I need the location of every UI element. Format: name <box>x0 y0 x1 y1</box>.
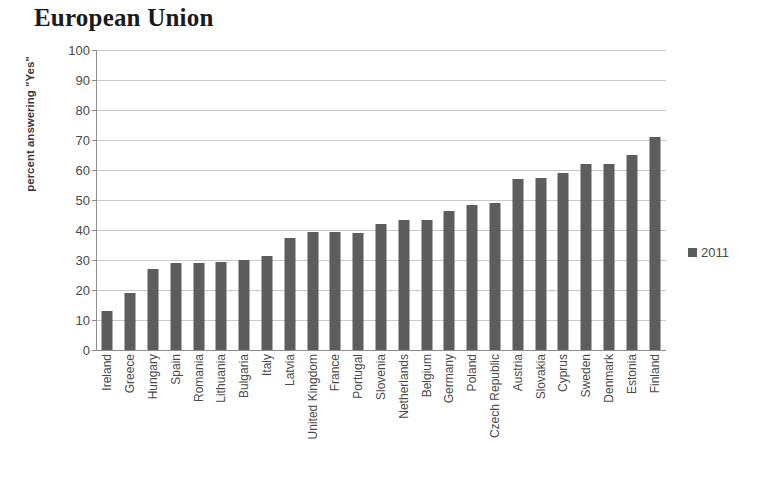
x-label-slot: Spain <box>164 354 187 464</box>
y-tick-label-0: 0 <box>83 343 90 358</box>
x-label-slot: Germany <box>438 354 461 464</box>
y-axis-line <box>96 50 97 351</box>
bar[interactable] <box>375 224 386 350</box>
gridline-0 <box>96 350 666 351</box>
page-title: European Union <box>34 4 214 32</box>
x-tick-label: Italy <box>260 354 274 376</box>
x-label-slot: France <box>324 354 347 464</box>
x-tick-label: Estonia <box>625 354 639 394</box>
x-label-slot: Poland <box>461 354 484 464</box>
x-tick-label: Denmark <box>602 354 616 403</box>
bar[interactable] <box>307 232 318 351</box>
x-label-slot: Bulgaria <box>233 354 256 464</box>
bar-slot <box>575 50 598 350</box>
y-tick-60 <box>92 170 97 171</box>
bar[interactable] <box>125 293 136 350</box>
bar[interactable] <box>512 179 523 350</box>
y-tick-label-40: 40 <box>76 223 90 238</box>
y-tick-label-100: 100 <box>68 43 90 58</box>
y-tick-70 <box>92 140 97 141</box>
bar[interactable] <box>147 269 158 350</box>
x-label-slot: Czech Republic <box>484 354 507 464</box>
x-label-slot: Denmark <box>598 354 621 464</box>
bar[interactable] <box>421 220 432 351</box>
bar[interactable] <box>581 164 592 350</box>
x-tick-label: Cyprus <box>556 354 570 392</box>
x-axis-tick-labels: IrelandGreeceHungarySpainRomaniaLithuani… <box>96 354 666 464</box>
x-label-slot: Romania <box>187 354 210 464</box>
x-tick-label: Belgium <box>420 354 434 397</box>
bar[interactable] <box>284 238 295 351</box>
x-tick-label: Ireland <box>100 354 114 391</box>
x-tick-label: United Kingdom <box>306 354 320 439</box>
y-tick-label-50: 50 <box>76 193 90 208</box>
bar-slot <box>643 50 666 350</box>
bar[interactable] <box>170 263 181 350</box>
bar-slot <box>347 50 370 350</box>
bar[interactable] <box>261 256 272 351</box>
x-tick-label: Lithuania <box>214 354 228 403</box>
x-label-slot: United Kingdom <box>301 354 324 464</box>
x-label-slot: Italy <box>256 354 279 464</box>
bar[interactable] <box>398 220 409 351</box>
bar[interactable] <box>489 203 500 350</box>
x-label-slot: Hungary <box>142 354 165 464</box>
bar[interactable] <box>649 137 660 350</box>
y-tick-80 <box>92 110 97 111</box>
x-tick-label: Hungary <box>146 354 160 399</box>
x-tick-label: Romania <box>192 354 206 402</box>
x-label-slot: Greece <box>119 354 142 464</box>
x-tick-label: Slovakia <box>534 354 548 399</box>
x-tick-label: Poland <box>465 354 479 391</box>
bar-slot <box>142 50 165 350</box>
bar[interactable] <box>193 263 204 350</box>
y-tick-30 <box>92 260 97 261</box>
bar-slot <box>392 50 415 350</box>
bar-slot <box>529 50 552 350</box>
bar-slot <box>484 50 507 350</box>
bar-slot <box>370 50 393 350</box>
x-tick-label: Czech Republic <box>488 354 502 438</box>
x-label-slot: Lithuania <box>210 354 233 464</box>
y-tick-10 <box>92 320 97 321</box>
x-label-slot: Cyprus <box>552 354 575 464</box>
bar-slot <box>278 50 301 350</box>
x-tick-label: Bulgaria <box>237 354 251 398</box>
bar[interactable] <box>467 205 478 351</box>
y-tick-0 <box>92 350 97 351</box>
bar[interactable] <box>535 178 546 351</box>
y-tick-label-20: 20 <box>76 283 90 298</box>
x-label-slot: Finland <box>643 354 666 464</box>
x-label-slot: Latvia <box>278 354 301 464</box>
bar-slot <box>210 50 233 350</box>
bar[interactable] <box>216 262 227 351</box>
x-tick-label: France <box>328 354 342 391</box>
x-label-slot: Estonia <box>620 354 643 464</box>
bar[interactable] <box>603 164 614 350</box>
y-tick-label-60: 60 <box>76 163 90 178</box>
x-tick-label: Netherlands <box>397 354 411 419</box>
bar[interactable] <box>102 311 113 350</box>
x-tick-label: Finland <box>648 354 662 393</box>
y-tick-20 <box>92 290 97 291</box>
bar-slot <box>256 50 279 350</box>
bar[interactable] <box>626 155 637 350</box>
x-tick-label: Slovenia <box>374 354 388 400</box>
y-axis-tick-labels: 0102030405060708090100 <box>52 50 90 350</box>
legend-label-2011: 2011 <box>701 245 729 260</box>
legend-swatch-2011 <box>688 248 697 257</box>
x-label-slot: Portugal <box>347 354 370 464</box>
x-tick-label: Latvia <box>283 354 297 386</box>
x-label-slot: Netherlands <box>392 354 415 464</box>
bar[interactable] <box>558 173 569 350</box>
x-tick-label: Germany <box>442 354 456 403</box>
bar-slot <box>461 50 484 350</box>
y-tick-label-90: 90 <box>76 73 90 88</box>
bar[interactable] <box>444 211 455 351</box>
bar[interactable] <box>239 260 250 350</box>
bar-slot <box>119 50 142 350</box>
bar-slot <box>233 50 256 350</box>
y-tick-50 <box>92 200 97 201</box>
bar[interactable] <box>330 232 341 351</box>
bar[interactable] <box>353 233 364 350</box>
